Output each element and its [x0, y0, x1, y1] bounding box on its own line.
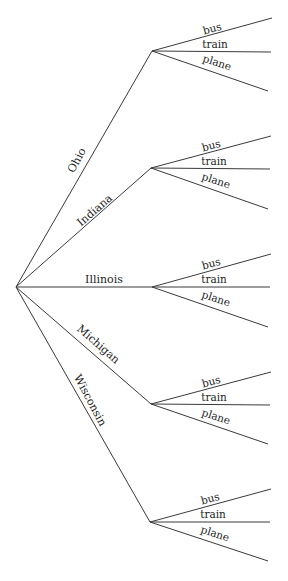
- edge-ohio: [16, 51, 152, 287]
- mode-label-bus: bus: [200, 137, 221, 153]
- mode-label-train: train: [202, 38, 228, 50]
- mode-label-bus: bus: [201, 20, 222, 36]
- state-label-wisconsin: Wisconsin: [71, 372, 109, 428]
- mode-label-plane: plane: [200, 406, 232, 426]
- mode-label-train: train: [201, 273, 227, 285]
- edge-indiana-train: [151, 168, 270, 169]
- state-label-ohio: Ohio: [65, 145, 89, 175]
- state-label-indiana: Indiana: [75, 191, 116, 229]
- tree-diagram: Ohio Indiana Illinois Michigan Wisconsin…: [0, 0, 288, 581]
- tree-edges: [16, 18, 272, 561]
- mode-label-train: train: [201, 391, 227, 403]
- edge-michigan-train: [151, 404, 270, 405]
- edge-ohio-train: [152, 51, 271, 52]
- mode-label-train: train: [201, 155, 227, 167]
- tree-labels: Ohio Indiana Illinois Michigan Wisconsin…: [65, 20, 233, 544]
- mode-label-train: train: [200, 508, 226, 520]
- mode-label-bus: bus: [200, 373, 221, 389]
- state-label-illinois: Illinois: [85, 273, 123, 286]
